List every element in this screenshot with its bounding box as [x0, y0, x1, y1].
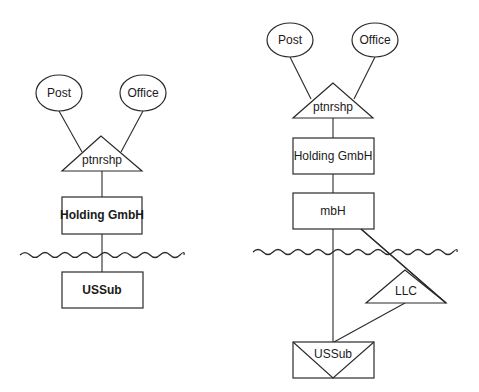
border-wave [253, 250, 457, 255]
node-llc: LLC [361, 229, 446, 303]
node-label: Post [47, 86, 72, 100]
node-label: Holding GmbH [60, 208, 144, 222]
node-office: Office [352, 23, 398, 57]
node-label: Office [359, 33, 390, 47]
edge-post-ptnrshp [290, 57, 311, 99]
node-label: ptnrshp [82, 153, 122, 167]
edge-office-ptnrshp [121, 111, 143, 152]
node-holding-gmbh: Holding GmbH [60, 197, 144, 234]
node-office: Office [120, 75, 166, 111]
node-label: mbH [320, 204, 345, 218]
node-post: Post [267, 23, 313, 57]
edge-llc-ussub [334, 303, 405, 342]
node-holding-gmbh: Holding GmbH [293, 138, 374, 174]
entity-diagrams: Post Office ptnrshp Holding GmbH USSub [0, 0, 479, 392]
left-diagram: Post Office ptnrshp Holding GmbH USSub [20, 75, 184, 308]
node-ptnrshp: ptnrshp [293, 83, 373, 118]
node-ussub: USSub [62, 272, 143, 308]
node-mbh: mbH [293, 193, 374, 229]
node-label: Office [127, 86, 158, 100]
node-label: ptnrshp [313, 100, 353, 114]
edge-office-ptnrshp [354, 57, 375, 99]
node-label: LLC [395, 284, 417, 298]
right-diagram: Post Office ptnrshp Holding GmbH mbH LLC… [253, 23, 457, 378]
node-label: USSub [82, 283, 121, 297]
edge-post-ptnrshp [59, 111, 82, 152]
node-label: USSub [314, 347, 352, 361]
node-ussub: USSub [293, 342, 374, 378]
node-label: Post [278, 33, 303, 47]
node-ptnrshp: ptnrshp [62, 136, 142, 171]
node-label: Holding GmbH [294, 149, 373, 163]
node-post: Post [36, 75, 82, 111]
